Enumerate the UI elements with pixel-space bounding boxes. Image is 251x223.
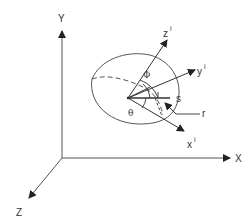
- r-label: r: [202, 108, 206, 119]
- theta-arc: [142, 98, 146, 108]
- coordinate-diagram: Y X Z z i y i x i Φ θ s r: [0, 0, 251, 223]
- local-y-label: y: [197, 66, 202, 77]
- local-y-superscript: i: [204, 63, 206, 70]
- phi-label: Φ: [143, 70, 150, 80]
- s-label: s: [176, 93, 181, 104]
- theta-label: θ: [128, 108, 133, 118]
- y-axis-label: Y: [58, 13, 65, 24]
- local-frame: z i y i x i Φ θ s r: [127, 25, 206, 150]
- z-axis: [29, 158, 62, 198]
- x-axis-label: X: [235, 153, 242, 164]
- local-x-label: x: [187, 139, 192, 150]
- body-outline: [92, 54, 179, 124]
- local-z-superscript: i: [170, 25, 172, 32]
- outer-contour: [92, 54, 179, 124]
- local-z-label: z: [163, 28, 168, 39]
- local-y-axis: [128, 70, 195, 98]
- z-axis-label: Z: [16, 207, 22, 218]
- local-x-superscript: i: [194, 136, 196, 143]
- frame-origin: [127, 97, 129, 99]
